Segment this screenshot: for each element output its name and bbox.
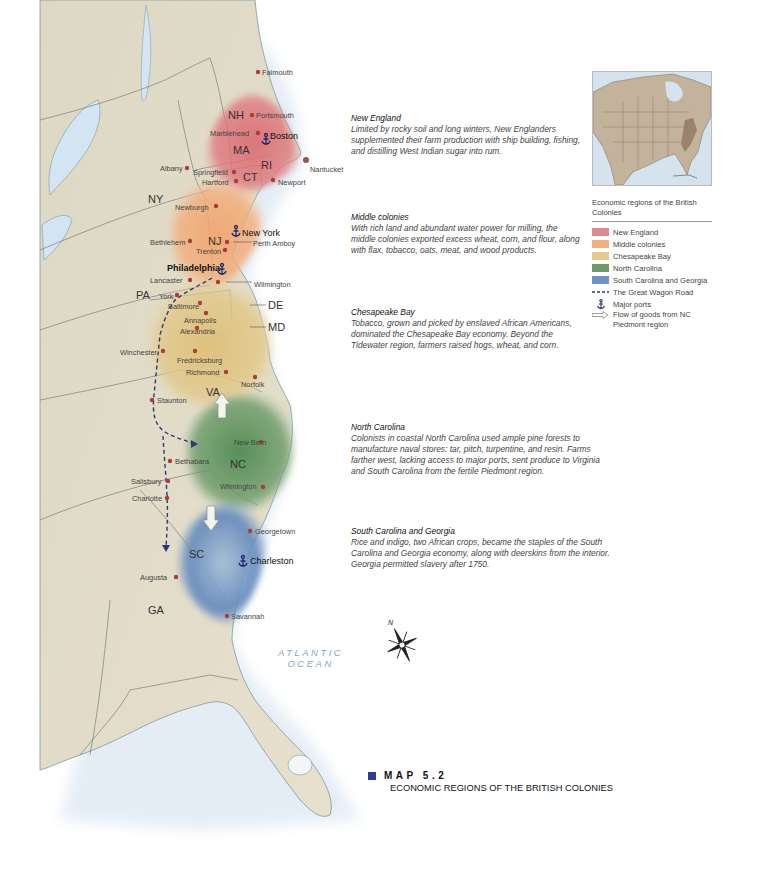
state-label-ct: CT: [243, 171, 258, 183]
city-label-alexandria: Alexandria: [180, 327, 215, 336]
inset-locator-map: [592, 71, 712, 186]
state-label-ri: RI: [261, 159, 272, 171]
legend-label: New England: [613, 228, 658, 237]
state-label-ga: GA: [148, 604, 164, 616]
region-description-middle-colonies: Middle colonies With rich land and abund…: [351, 212, 583, 256]
compass-north-label: N: [388, 619, 393, 626]
legend-item-flow-of-goods: Flow of goods from NC Piedmont region: [592, 310, 712, 332]
city-label-bethlehem: Bethlehem: [150, 238, 185, 247]
city-label-york: York: [159, 292, 174, 301]
legend-label: Flow of goods from NC Piedmont region: [613, 310, 703, 330]
city-label-albany: Albany: [160, 164, 183, 173]
anchor-icon: [592, 299, 609, 310]
state-label-nc: NC: [230, 458, 246, 470]
legend-item-wagon-road: The Great Wagon Road: [592, 286, 712, 298]
state-label-va: VA: [206, 386, 220, 398]
legend-swatch: [592, 228, 609, 236]
city-label-new-york: New York: [242, 228, 280, 238]
region-heading: South Carolina and Georgia: [351, 526, 613, 537]
city-label-springfield: Springfield: [193, 168, 228, 177]
city-label-trenton: Trenton: [196, 247, 221, 256]
region-heading: North Carolina: [351, 422, 613, 433]
city-label-portsmouth: Portsmouth: [256, 111, 294, 120]
legend-swatch: [592, 264, 609, 272]
city-label-winchester: Winchester: [120, 348, 157, 357]
compass-rose-icon: [380, 622, 424, 668]
hollow-arrow-icon: [592, 311, 609, 319]
state-label-nj: NJ: [208, 235, 221, 247]
city-label-wilmington-nc: Wilmington: [220, 482, 257, 491]
city-label-newport: Newport: [278, 178, 306, 187]
ocean-label-line2: OCEAN: [278, 658, 343, 669]
city-label-staunton: Staunton: [157, 396, 187, 405]
legend-swatch: [592, 252, 609, 260]
city-label-charlotte: Charlotte: [132, 494, 162, 503]
inset-north-america: [593, 72, 711, 185]
map-number: MAP 5.2: [390, 770, 613, 781]
legend-label: North Carolina: [613, 264, 662, 273]
city-label-salisbury: Salisbury: [131, 477, 161, 486]
city-label-wilmington-de: Wilmington: [254, 280, 291, 289]
state-label-pa: PA: [136, 289, 150, 301]
city-label-richmond: Richmond: [186, 368, 219, 377]
state-label-ny: NY: [148, 193, 163, 205]
city-label-nantucket: Nantucket: [310, 165, 343, 174]
ocean-label-line1: ATLANTIC: [278, 647, 343, 658]
legend-item-new-england: New England: [592, 226, 712, 238]
city-label-augusta: Augusta: [140, 573, 167, 582]
city-label-new-bern: New Bern: [234, 438, 266, 447]
city-label-norfolk: Norfolk: [241, 380, 264, 389]
city-label-georgetown: Georgetown: [255, 527, 295, 536]
map-caption: MAP 5.2 ECONOMIC REGIONS OF THE BRITISH …: [390, 770, 613, 793]
city-label-fredricksburg: Fredricksburg: [177, 356, 222, 365]
region-description-chesapeake-bay: Chesapeake Bay Tobacco, grown and picked…: [351, 307, 583, 351]
city-label-philadelphia: Philadelphia: [167, 263, 220, 273]
legend-title: Economic regions of the British Colonies: [592, 198, 712, 222]
legend-swatch: [592, 240, 609, 248]
lake-okeechobee: [288, 755, 312, 775]
city-label-bethabara: Bethabara: [175, 457, 209, 466]
state-label-sc: SC: [189, 548, 204, 560]
city-label-newburgh: Newburgh: [175, 203, 209, 212]
city-label-savannah: Savannah: [231, 612, 264, 621]
city-label-perth-amboy: Perth Amboy: [253, 239, 295, 248]
city-label-charleston: Charleston: [250, 556, 294, 566]
region-description-sc-georgia: South Carolina and Georgia Rice and indi…: [351, 526, 613, 570]
city-label-falmouth: Falmouth: [262, 68, 293, 77]
city-label-annapolis: Annapolis: [184, 316, 216, 325]
region-heading: Chesapeake Bay: [351, 307, 583, 318]
state-label-ma: MA: [233, 144, 250, 156]
state-label-de: DE: [268, 299, 283, 311]
region-body: Limited by rocky soil and long winters, …: [351, 124, 586, 157]
city-label-hartford: Hartford: [202, 178, 229, 187]
dashed-line-icon: [592, 290, 609, 294]
legend-item-chesapeake: Chesapeake Bay: [592, 250, 712, 262]
legend-label: Major ports: [613, 300, 651, 309]
legend-label: South Carolina and Georgia: [613, 276, 707, 285]
state-label-md: MD: [268, 321, 285, 333]
map-number-label: MAP 5.2: [384, 770, 447, 781]
legend-label: Middle colonies: [613, 240, 665, 249]
city-label-marblehead: Marblehead: [210, 129, 249, 138]
legend-item-north-carolina: North Carolina: [592, 262, 712, 274]
city-label-lancaster: Lancaster: [150, 276, 182, 285]
state-label-nh: NH: [228, 109, 244, 121]
legend-swatch: [592, 276, 609, 284]
caption-square-icon: [368, 772, 376, 780]
region-body: With rich land and abundant water power …: [351, 223, 583, 256]
region-description-new-england: New England Limited by rocky soil and lo…: [351, 113, 586, 157]
legend-item-major-ports: Major ports: [592, 298, 712, 310]
region-description-north-carolina: North Carolina Colonists in coastal Nort…: [351, 422, 613, 477]
legend-label: Chesapeake Bay: [613, 252, 671, 261]
region-heading: New England: [351, 113, 586, 124]
legend: Economic regions of the British Colonies…: [592, 198, 712, 332]
city-label-boston: Boston: [270, 131, 298, 141]
map-title: ECONOMIC REGIONS OF THE BRITISH COLONIES: [390, 783, 613, 793]
legend-item-middle-colonies: Middle colonies: [592, 238, 712, 250]
city-label-baltimore: Baltimore: [168, 302, 199, 311]
legend-label: The Great Wagon Road: [613, 288, 693, 297]
region-heading: Middle colonies: [351, 212, 583, 223]
region-body: Colonists in coastal North Carolina used…: [351, 433, 613, 477]
legend-item-sc-georgia: South Carolina and Georgia: [592, 274, 712, 286]
region-body: Tobacco, grown and picked by enslaved Af…: [351, 318, 583, 351]
